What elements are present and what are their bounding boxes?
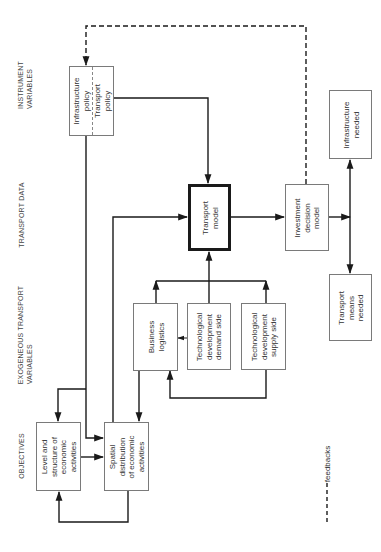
transport-model-label: Transport model [200, 201, 219, 235]
spatial-distribution-node: Spatial distribution of economic activit… [104, 422, 149, 491]
row-label-transport-data: TRANSPORT DATA [18, 182, 27, 247]
tech-supply-label: Technological development supply side [249, 312, 278, 360]
row-label-objectives: OBJECTIVES [18, 433, 27, 479]
edge-infra-to-level [58, 389, 86, 421]
tech-demand-node: Technological development demand side [187, 303, 231, 370]
edge-policy-to-model [113, 98, 208, 183]
edge-infra-to-spatial [86, 135, 103, 438]
level-structure-label: Level and structure of economic activiti… [40, 436, 78, 476]
infrastructure-policy-label: Infrastructure policy [71, 77, 90, 124]
legend-feedbacks: feedbacks [323, 446, 332, 482]
edge-spatial-to-level [59, 491, 128, 522]
tech-demand-label: Technological development demand side [195, 312, 224, 360]
row-label-exogeneous: EXOGENEOUS TRANSPORT VARIABLES [17, 286, 34, 385]
business-logistics-node: Business logistics [133, 303, 178, 371]
investment-decision-node: Investment decision model [285, 184, 329, 251]
infrastructure-needed-label: Infrastructure needed [341, 101, 360, 148]
transport-policy-node: Transport policy [92, 67, 114, 135]
infrastructure-policy-node: Infrastructure policy [70, 67, 93, 135]
edge-supply-to-logistics [170, 370, 266, 398]
spatial-distribution-label: Spatial distribution of economic activit… [108, 435, 146, 478]
transport-model-node: Transport model [188, 184, 231, 251]
transport-policy-label: Transport policy [93, 84, 112, 118]
transport-means-needed-node: Transport means needed [329, 274, 372, 341]
investment-decision-label: Investment decision model [293, 198, 322, 237]
policy-box: Infrastructure policy Transport policy [69, 66, 114, 136]
transport-means-needed-label: Transport means needed [336, 291, 365, 325]
business-logistics-label: Business logistics [146, 321, 165, 353]
feedback-edge [86, 26, 306, 184]
infrastructure-needed-node: Infrastructure needed [329, 90, 372, 159]
tech-supply-node: Technological development supply side [241, 303, 286, 370]
row-label-instrument: INSTRUMENT VARIABLES [17, 61, 34, 109]
level-structure-node: Level and structure of economic activiti… [36, 422, 81, 491]
